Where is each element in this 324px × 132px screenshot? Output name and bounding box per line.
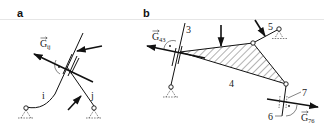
load-arrow-lower — [68, 96, 81, 110]
ground-pivot-3 — [163, 85, 179, 97]
panel-b: b G 43 3 4 5 — [143, 7, 318, 124]
link-i — [26, 33, 83, 108]
load-arrow-5 — [255, 20, 265, 36]
svg-text:43: 43 — [159, 36, 166, 43]
svg-text:ij: ij — [47, 43, 51, 50]
right-angle-arc — [286, 105, 297, 116]
slider-guide-3 — [178, 46, 182, 64]
part-label-6: 6 — [268, 111, 273, 122]
force-label-g76: G 76 — [301, 111, 315, 124]
slider-guide-7 — [279, 96, 280, 108]
part-label-7: 7 — [302, 87, 307, 98]
load-arrow-upper — [77, 46, 102, 51]
link-label-j: j — [90, 90, 94, 101]
leader-7 — [288, 92, 301, 98]
right-angle-dot — [169, 45, 171, 47]
panel-label-b: b — [143, 7, 150, 19]
panel-a: a G ij i j — [17, 7, 102, 118]
part-label-4: 4 — [229, 78, 234, 89]
ground-pivot-right — [86, 106, 102, 118]
part-label-5: 5 — [268, 21, 273, 32]
link-5 — [253, 29, 279, 43]
force-label-g43: G 43 — [152, 30, 166, 43]
joint-bottom — [284, 82, 288, 86]
right-angle-dot — [288, 105, 290, 107]
part-label-3: 3 — [186, 24, 191, 35]
force-label-gij: G ij — [40, 37, 51, 50]
force-arrow-gij — [34, 54, 93, 82]
force-arrow-g76 — [267, 99, 318, 107]
joint-top — [251, 41, 255, 45]
diagram-canvas: a G ij i j — [0, 0, 324, 132]
svg-text:76: 76 — [308, 117, 315, 124]
ground-pivot-5 — [272, 27, 287, 39]
link-label-i: i — [42, 90, 45, 101]
panel-label-a: a — [17, 7, 24, 19]
